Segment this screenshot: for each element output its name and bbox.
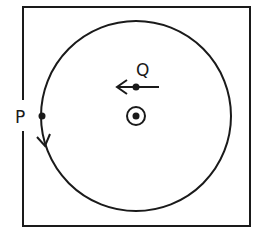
diagram: P Q (0, 0, 261, 236)
label-p: P (15, 107, 25, 127)
point-p (39, 113, 46, 120)
point-q (133, 84, 140, 91)
label-q: Q (136, 60, 149, 80)
field-out-of-page-icon (127, 107, 145, 125)
